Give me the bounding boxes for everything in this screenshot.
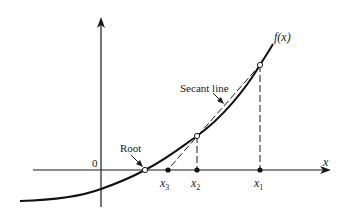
secant-line-label: Secant line: [180, 82, 229, 94]
secant-line: [171, 65, 260, 166]
x2-label: x2: [190, 176, 200, 192]
curve-point-x2: [194, 133, 199, 138]
x3-label-sub: 3: [165, 183, 169, 192]
point-x2: [194, 167, 199, 172]
origin-label: 0: [92, 157, 98, 169]
root-label: Root: [120, 142, 141, 154]
x-axis-label: x: [322, 155, 329, 169]
x3-label: x3: [159, 176, 169, 192]
secant-method-diagram: 0 x f(x) Secant line Root x3 x2 x1: [0, 0, 346, 220]
x1-label-sub: 1: [259, 183, 263, 192]
curve-point-x1: [257, 62, 262, 67]
point-x1: [257, 167, 262, 172]
function-curve: [20, 44, 273, 201]
root-point: [142, 167, 147, 172]
point-x3: [165, 167, 170, 172]
function-label: f(x): [274, 30, 291, 44]
x2-label-sub: 2: [196, 183, 200, 192]
x1-label: x1: [253, 176, 263, 192]
